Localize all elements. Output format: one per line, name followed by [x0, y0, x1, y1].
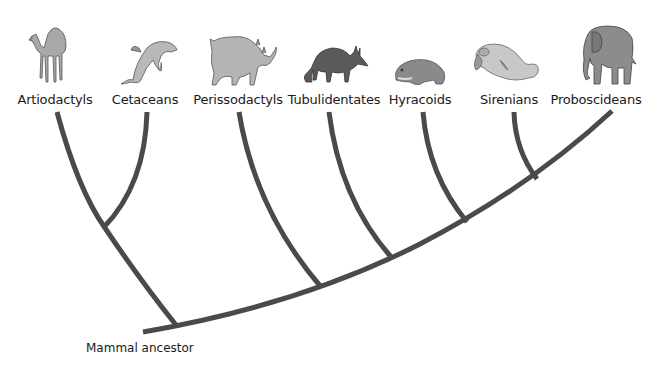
root-label-mammal-ancestor: Mammal ancestor — [86, 341, 194, 355]
taxon-label-perissodactyls: Perissodactyls — [193, 92, 283, 107]
branch-tubulidentates — [329, 112, 392, 258]
taxon-label-tubulidentates: Tubulidentates — [288, 92, 381, 107]
camel-icon — [26, 22, 74, 88]
taxon-label-artiodactyls: Artiodactyls — [17, 92, 92, 107]
hyrax-icon — [392, 54, 448, 88]
branch-main-trunk — [143, 111, 612, 332]
branch-hyracoids — [423, 112, 467, 222]
rhinoceros-icon — [206, 33, 280, 89]
taxon-label-hyracoids: Hyracoids — [389, 92, 452, 107]
branch-perissodactyls — [239, 112, 321, 287]
aardvark-icon — [300, 42, 370, 88]
branch-artiodactyls — [57, 112, 176, 325]
branch-sirenians — [514, 112, 537, 179]
branch-cetaceans — [104, 112, 147, 227]
cladogram: Artiodactyls Cetaceans Perissodactyls Tu… — [0, 0, 668, 371]
elephant-icon — [578, 24, 638, 88]
manatee-icon — [470, 40, 540, 86]
taxon-label-sirenians: Sirenians — [480, 92, 538, 107]
dolphin-icon — [117, 34, 179, 88]
taxon-label-proboscideans: Proboscideans — [551, 92, 642, 107]
taxon-label-cetaceans: Cetaceans — [112, 92, 178, 107]
